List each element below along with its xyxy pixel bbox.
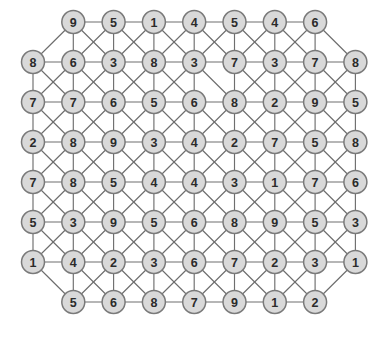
graph-node[interactable]: 8 bbox=[62, 131, 85, 154]
graph-node[interactable]: 5 bbox=[304, 211, 327, 234]
graph-node-label: 7 bbox=[30, 96, 37, 110]
graph-node-label: 5 bbox=[150, 216, 157, 230]
graph-node[interactable]: 9 bbox=[304, 91, 327, 114]
graph-node[interactable]: 1 bbox=[142, 11, 165, 34]
graph-node-label: 7 bbox=[70, 96, 77, 110]
graph-node[interactable]: 2 bbox=[22, 131, 45, 154]
graph-node-label: 1 bbox=[352, 256, 359, 270]
graph-node-label: 1 bbox=[271, 176, 278, 190]
graph-node[interactable]: 5 bbox=[62, 291, 85, 314]
graph-node[interactable]: 4 bbox=[183, 11, 206, 34]
graph-node-label: 5 bbox=[30, 216, 37, 230]
graph-node-label: 7 bbox=[312, 176, 319, 190]
graph-node[interactable]: 9 bbox=[102, 131, 125, 154]
graph-node[interactable]: 5 bbox=[304, 131, 327, 154]
graph-node-label: 8 bbox=[352, 136, 359, 150]
graph-node-label: 8 bbox=[150, 56, 157, 70]
graph-node[interactable]: 3 bbox=[344, 211, 367, 234]
graph-node[interactable]: 1 bbox=[263, 291, 286, 314]
graph-node[interactable]: 9 bbox=[102, 211, 125, 234]
graph-node-label: 1 bbox=[150, 16, 157, 30]
graph-node[interactable]: 7 bbox=[304, 171, 327, 194]
graph-node[interactable]: 1 bbox=[263, 171, 286, 194]
graph-node[interactable]: 8 bbox=[344, 131, 367, 154]
graph-node[interactable]: 5 bbox=[344, 91, 367, 114]
graph-node[interactable]: 5 bbox=[102, 11, 125, 34]
graph-node[interactable]: 1 bbox=[344, 251, 367, 274]
graph-node[interactable]: 4 bbox=[142, 171, 165, 194]
graph-node[interactable]: 9 bbox=[62, 11, 85, 34]
graph-node[interactable]: 7 bbox=[183, 291, 206, 314]
graph-node-label: 6 bbox=[191, 96, 198, 110]
graph-node[interactable]: 3 bbox=[102, 51, 125, 74]
graph-node-label: 9 bbox=[271, 216, 278, 230]
graph-node[interactable]: 7 bbox=[304, 51, 327, 74]
graph-node-label: 2 bbox=[110, 256, 117, 270]
graph-node-label: 7 bbox=[231, 256, 238, 270]
graph-node[interactable]: 6 bbox=[102, 291, 125, 314]
graph-node[interactable]: 6 bbox=[304, 11, 327, 34]
graph-node-label: 2 bbox=[312, 296, 319, 310]
graph-node[interactable]: 6 bbox=[62, 51, 85, 74]
graph-node-label: 4 bbox=[191, 136, 198, 150]
graph-node-label: 4 bbox=[150, 176, 157, 190]
graph-node[interactable]: 8 bbox=[142, 291, 165, 314]
graph-node[interactable]: 5 bbox=[142, 91, 165, 114]
graph-node[interactable]: 6 bbox=[183, 251, 206, 274]
graph-node-label: 9 bbox=[110, 136, 117, 150]
graph-node[interactable]: 9 bbox=[223, 291, 246, 314]
graph-node[interactable]: 7 bbox=[223, 51, 246, 74]
graph-node[interactable]: 8 bbox=[62, 171, 85, 194]
graph-node[interactable]: 3 bbox=[304, 251, 327, 274]
graph-node[interactable]: 3 bbox=[183, 51, 206, 74]
graph-node[interactable]: 8 bbox=[223, 91, 246, 114]
graph-node-label: 2 bbox=[271, 256, 278, 270]
graph-node-label: 6 bbox=[110, 96, 117, 110]
graph-node[interactable]: 7 bbox=[223, 251, 246, 274]
graph-node[interactable]: 6 bbox=[102, 91, 125, 114]
graph-node-label: 6 bbox=[110, 296, 117, 310]
graph-node[interactable]: 2 bbox=[263, 91, 286, 114]
graph-node[interactable]: 8 bbox=[223, 211, 246, 234]
graph-node[interactable]: 7 bbox=[263, 131, 286, 154]
graph-node[interactable]: 6 bbox=[183, 91, 206, 114]
graph-node[interactable]: 9 bbox=[263, 211, 286, 234]
graph-node[interactable]: 5 bbox=[102, 171, 125, 194]
graph-node[interactable]: 3 bbox=[142, 251, 165, 274]
graph-node-label: 8 bbox=[352, 56, 359, 70]
graph-node[interactable]: 8 bbox=[344, 51, 367, 74]
graph-node-label: 9 bbox=[110, 216, 117, 230]
graph-node[interactable]: 8 bbox=[142, 51, 165, 74]
graph-node-label: 3 bbox=[150, 136, 157, 150]
graph-node[interactable]: 8 bbox=[22, 51, 45, 74]
graph-node[interactable]: 4 bbox=[183, 171, 206, 194]
graph-node[interactable]: 6 bbox=[183, 211, 206, 234]
graph-node[interactable]: 5 bbox=[223, 11, 246, 34]
graph-node[interactable]: 2 bbox=[102, 251, 125, 274]
graph-node[interactable]: 3 bbox=[142, 131, 165, 154]
graph-node[interactable]: 2 bbox=[304, 291, 327, 314]
graph-node-label: 5 bbox=[312, 216, 319, 230]
graph-node[interactable]: 7 bbox=[22, 91, 45, 114]
graph-node-label: 4 bbox=[191, 176, 198, 190]
graph-node-label: 8 bbox=[70, 176, 77, 190]
graph-node[interactable]: 7 bbox=[22, 171, 45, 194]
graph-node[interactable]: 2 bbox=[263, 251, 286, 274]
graph-node-label: 8 bbox=[30, 56, 37, 70]
graph-node[interactable]: 5 bbox=[22, 211, 45, 234]
graph-node-label: 6 bbox=[70, 56, 77, 70]
graph-node[interactable]: 1 bbox=[22, 251, 45, 274]
graph-node[interactable]: 6 bbox=[344, 171, 367, 194]
graph-node-label: 7 bbox=[312, 56, 319, 70]
graph-node-label: 9 bbox=[231, 296, 238, 310]
graph-node-label: 5 bbox=[352, 96, 359, 110]
graph-node[interactable]: 4 bbox=[62, 251, 85, 274]
graph-node[interactable]: 4 bbox=[263, 11, 286, 34]
graph-node[interactable]: 7 bbox=[62, 91, 85, 114]
graph-node[interactable]: 5 bbox=[142, 211, 165, 234]
graph-node[interactable]: 3 bbox=[263, 51, 286, 74]
graph-node[interactable]: 2 bbox=[223, 131, 246, 154]
graph-node[interactable]: 3 bbox=[62, 211, 85, 234]
graph-node[interactable]: 3 bbox=[223, 171, 246, 194]
graph-node[interactable]: 4 bbox=[183, 131, 206, 154]
